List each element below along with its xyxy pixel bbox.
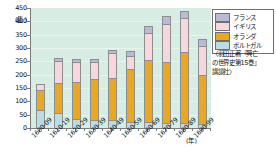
bar-stack[interactable] <box>126 51 135 128</box>
x-axis-tick-mark <box>84 129 85 131</box>
y-axis-tick-label: 300 <box>15 44 27 52</box>
bar-segment <box>199 76 206 125</box>
legend: フランスイギリスオランダポルトガル <box>212 9 274 54</box>
bar-segment <box>55 62 62 84</box>
y-axis-tick-label: 50 <box>19 111 27 119</box>
source-note: 〈羽田正著『興亡の世界史第15巻』講談社〉 <box>212 50 276 76</box>
source-line: 講談社〉 <box>212 68 276 77</box>
y-axis-tick-label: 200 <box>15 71 27 79</box>
y-axis-tick-label: 150 <box>15 84 27 92</box>
bar-group <box>31 8 211 128</box>
bar-segment <box>37 91 44 111</box>
bar-segment <box>73 83 80 119</box>
source-line: 〈羽田正著『興亡 <box>212 50 276 59</box>
legend-swatch <box>215 41 230 50</box>
bar-stack[interactable] <box>108 50 117 128</box>
bar-segment <box>163 63 170 124</box>
bar-segment <box>163 25 170 63</box>
x-axis-tick-mark <box>210 129 211 131</box>
bar-stack[interactable] <box>72 59 81 128</box>
x-axis-unit: (年) <box>186 136 197 145</box>
bar-stack[interactable] <box>90 59 99 128</box>
legend-item[interactable]: イギリス <box>215 22 271 31</box>
y-axis: (隻) 450400350300250200150100500 <box>0 0 30 136</box>
bar-segment <box>145 34 152 62</box>
bar-segment <box>163 17 170 25</box>
bar-segment <box>73 63 80 84</box>
bar-segment <box>127 70 134 123</box>
x-axis-tick-mark <box>66 129 67 131</box>
y-axis-tick-label: 350 <box>15 31 27 39</box>
bar-segment <box>109 79 116 121</box>
chart-figure: (隻) 450400350300250200150100500 1600-091… <box>0 0 276 168</box>
bar-segment <box>109 54 116 78</box>
legend-swatch <box>215 22 230 31</box>
legend-item-label: フランス <box>233 13 256 22</box>
bar-segment <box>127 57 134 70</box>
y-axis-tick-label: 100 <box>15 97 27 105</box>
bar-stack[interactable] <box>54 58 63 128</box>
bar-segment <box>199 47 206 76</box>
legend-swatch <box>215 32 230 41</box>
x-axis-tick-mark <box>156 129 157 131</box>
bar-segment <box>181 12 188 19</box>
x-axis-tick-mark <box>138 129 139 131</box>
x-axis: 1600-091610-191620-291630-391640-491650-… <box>30 129 210 168</box>
bar-segment <box>181 19 188 52</box>
y-axis-tick-label: 400 <box>15 17 27 25</box>
legend-item-label: ポルトガル <box>233 41 262 50</box>
plot-area <box>30 8 211 129</box>
legend-item[interactable]: フランス <box>215 13 271 22</box>
x-axis-tick-mark <box>102 129 103 131</box>
bar-stack[interactable] <box>180 11 189 128</box>
source-line: の世界史第15巻』 <box>212 59 276 68</box>
legend-item[interactable]: オランダ <box>215 32 271 41</box>
y-axis-tick-label: 250 <box>15 57 27 65</box>
x-axis-tick-mark <box>192 129 193 131</box>
bar-stack[interactable] <box>198 39 207 128</box>
bar-segment <box>145 61 152 123</box>
bar-segment <box>55 84 62 114</box>
legend-item[interactable]: ポルトガル <box>215 41 271 50</box>
bar-stack[interactable] <box>144 26 153 128</box>
legend-item-label: イギリス <box>233 22 256 31</box>
bar-segment <box>91 80 98 120</box>
legend-item-label: オランダ <box>233 32 256 41</box>
y-axis-tick-label: 450 <box>15 4 27 12</box>
bar-segment <box>181 53 188 125</box>
legend-swatch <box>215 13 230 22</box>
bar-stack[interactable] <box>162 16 171 128</box>
x-axis-tick-mark <box>120 129 121 131</box>
bar-segment <box>199 40 206 47</box>
x-axis-tick-mark <box>30 129 31 131</box>
x-axis-tick-mark <box>48 129 49 131</box>
bar-segment <box>91 63 98 80</box>
x-axis-tick-mark <box>174 129 175 131</box>
